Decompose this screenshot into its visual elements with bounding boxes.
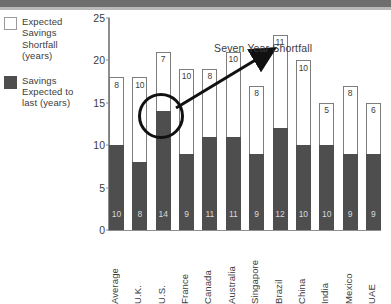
bar-value-label-savings: 8 [137,210,142,219]
bar-column[interactable]: 510 [319,18,334,230]
bar-segment-savings[interactable]: 10 [319,145,334,230]
bar-value-label-savings: 9 [371,210,376,219]
chart-plot-area: 0510152025 81010871410981110118911121010… [83,12,383,252]
bar-column[interactable]: 69 [366,18,381,230]
bar-segment-shortfall[interactable]: 8 [202,69,217,137]
y-tick-label: 5 [99,182,105,194]
bar-value-label-shortfall: 10 [299,64,308,73]
bar-value-label-savings: 10 [322,210,331,219]
bar-column[interactable]: 811 [202,18,217,230]
bar-segment-savings[interactable]: 9 [343,154,358,230]
bar-segment-shortfall[interactable]: 10 [132,77,147,162]
bar-segment-savings[interactable]: 12 [273,128,288,230]
bar-value-label-savings: 12 [275,210,284,219]
x-tick-label: U.S. [156,234,171,304]
bar-value-label-shortfall: 10 [135,81,144,90]
filled-swatch-icon [4,76,17,89]
bar-value-label-shortfall: 7 [161,55,166,64]
bar-segment-savings[interactable]: 10 [296,145,311,230]
bar-segment-shortfall[interactable]: 10 [226,52,241,137]
legend-label-shortfall: Expected Savings Shortfall (years) [22,16,88,62]
x-axis-labels: AverageU.K.U.S.FranceCanadaAustraliaSing… [109,234,381,304]
bar-group: 810108714109811101189111210105108969 [109,18,381,230]
bar-column[interactable]: 1010 [296,18,311,230]
bar-value-label-shortfall: 10 [182,72,191,81]
x-tick-label: Average [109,234,124,304]
bar-value-label-savings: 10 [299,210,308,219]
legend-item-shortfall: Expected Savings Shortfall (years) [4,16,88,62]
y-tick-label: 10 [93,139,105,151]
bar-column[interactable]: 714 [156,18,171,230]
bar-column[interactable]: 1011 [226,18,241,230]
x-tick-label: France [179,234,194,304]
y-tick-label: 0 [99,224,105,236]
x-tick-label: UAE [366,234,381,304]
bar-column[interactable]: 1112 [273,18,288,230]
bar-segment-shortfall[interactable]: 11 [273,35,288,128]
x-tick-label: Mexico [343,234,358,304]
bar-value-label-shortfall: 5 [324,106,329,115]
bar-segment-shortfall[interactable]: 8 [249,86,264,154]
legend-item-savings: Savings Expected to last (years) [4,75,88,109]
bar-segment-shortfall[interactable]: 5 [319,103,334,145]
bar-segment-shortfall[interactable]: 6 [366,103,381,154]
bar-segment-savings[interactable]: 9 [249,154,264,230]
bar-value-label-shortfall: 8 [254,89,259,98]
bar-column[interactable]: 109 [179,18,194,230]
y-tick-label: 20 [93,54,105,66]
bar-value-label-shortfall: 10 [229,55,238,64]
bar-value-label-shortfall: 11 [276,38,285,47]
bar-segment-shortfall[interactable]: 10 [179,69,194,154]
bar-value-label-savings: 14 [158,210,167,219]
bar-segment-shortfall[interactable]: 10 [296,60,311,145]
x-tick-label: China [296,234,311,304]
bar-segment-savings[interactable]: 10 [109,145,124,230]
x-tick-label: Singapore [249,234,264,304]
bar-value-label-savings: 9 [254,210,259,219]
bar-segment-savings[interactable]: 14 [156,111,171,230]
bar-value-label-shortfall: 8 [348,89,353,98]
y-tick-label: 25 [93,12,105,24]
x-tick-label: Australia [226,234,241,304]
bar-column[interactable]: 89 [343,18,358,230]
bar-value-label-savings: 9 [348,210,353,219]
bar-segment-savings[interactable]: 9 [179,154,194,230]
x-tick-label: India [319,234,334,304]
bar-value-label-savings: 9 [184,210,189,219]
chart-legend: Expected Savings Shortfall (years) Savin… [4,16,88,122]
x-tick-label: Canada [202,234,217,304]
bar-segment-savings[interactable]: 11 [226,137,241,230]
x-tick-label: Brazil [273,234,288,304]
legend-label-savings: Savings Expected to last (years) [22,75,88,109]
scan-artifact-band [0,0,391,9]
bar-segment-savings[interactable]: 11 [202,137,217,230]
bar-value-label-shortfall: 6 [371,106,376,115]
y-tick-label: 15 [93,97,105,109]
x-axis-line [108,230,381,231]
bar-segment-shortfall[interactable]: 7 [156,52,171,111]
bar-value-label-savings: 11 [206,210,215,219]
bar-column[interactable]: 810 [109,18,124,230]
bar-segment-shortfall[interactable]: 8 [343,86,358,154]
bar-value-label-shortfall: 8 [114,81,119,90]
x-tick-label: U.K. [132,234,147,304]
bar-segment-savings[interactable]: 8 [132,162,147,230]
bar-segment-shortfall[interactable]: 8 [109,77,124,145]
bar-segment-savings[interactable]: 9 [366,154,381,230]
empty-swatch-icon [4,17,17,30]
bar-value-label-savings: 11 [229,210,238,219]
bar-column[interactable]: 108 [132,18,147,230]
bar-value-label-shortfall: 8 [208,72,213,81]
bar-column[interactable]: 89 [249,18,264,230]
bar-value-label-savings: 10 [112,210,121,219]
